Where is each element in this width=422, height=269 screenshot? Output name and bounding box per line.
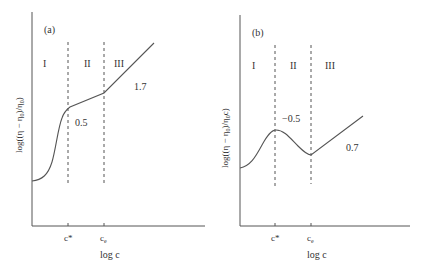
- y-axis-label: log((η − η0)/η0c): [220, 108, 231, 168]
- figure: (a) I II III 1.7 0.5 c* ce log c log((η …: [0, 0, 422, 269]
- slope-label-3: 0.7: [346, 142, 359, 153]
- curve-b: [240, 116, 363, 168]
- slope-label-2: 0.5: [75, 117, 88, 128]
- curve-a: [32, 43, 154, 181]
- region-label-2: II: [84, 58, 91, 69]
- x-axis-label: log c: [307, 249, 327, 260]
- slope-label-3: 1.7: [134, 81, 147, 92]
- region-label-2: II: [290, 60, 297, 71]
- y-axis-label: log((η − η0)/η0): [14, 97, 25, 153]
- panel-b: (b) I II III −0.5 0.7 c* ce log c log((η…: [220, 15, 410, 260]
- region-label-1: I: [43, 58, 46, 69]
- region-label-3: III: [114, 58, 124, 69]
- tick-label-cstar: c*: [271, 233, 280, 243]
- x-axis-label: log c: [100, 249, 120, 260]
- tick-label-ce: ce: [307, 233, 314, 244]
- tick-label-ce: ce: [100, 233, 107, 244]
- region-label-1: I: [252, 60, 255, 71]
- region-label-3: III: [325, 60, 335, 71]
- panel-label: (a): [44, 24, 55, 36]
- panel-label: (b): [252, 27, 264, 39]
- panel-a: (a) I II III 1.7 0.5 c* ce log c log((η …: [14, 12, 205, 260]
- slope-label-2: −0.5: [282, 113, 300, 124]
- tick-label-cstar: c*: [64, 233, 73, 243]
